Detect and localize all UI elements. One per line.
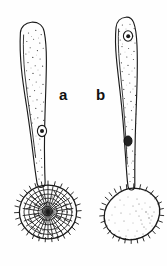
specimen-b-label: b [96, 86, 105, 103]
specimen-b-nucleus-lower [124, 136, 132, 146]
line-drawing-canvas: a [0, 0, 167, 266]
canvas-background [0, 0, 167, 266]
figure-illustration: a [0, 0, 167, 266]
specimen-a-nucleus [37, 125, 46, 136]
specimen-b-nucleus-upper [123, 31, 132, 41]
specimen-a-label: a [59, 86, 68, 103]
